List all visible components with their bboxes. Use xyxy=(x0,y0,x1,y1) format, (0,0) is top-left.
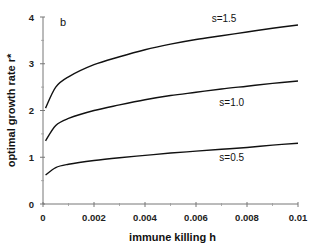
panel-label: b xyxy=(60,16,66,28)
y-tick-label: 2 xyxy=(29,105,34,116)
x-tick-label: 0 xyxy=(40,212,45,223)
x-tick-label: 0.004 xyxy=(133,212,157,223)
x-axis-title: immune killing h xyxy=(129,231,216,243)
line-chart: 0123400.0020.0040.0060.0080.01immune kil… xyxy=(0,0,319,250)
series-line-s10 xyxy=(46,81,298,141)
y-tick-label: 3 xyxy=(29,58,34,69)
y-tick-label: 1 xyxy=(29,152,35,163)
series-label: s=1.0 xyxy=(219,97,244,108)
y-tick-label: 4 xyxy=(29,12,35,23)
y-axis-title: optimal growth rate r* xyxy=(5,53,17,167)
curves xyxy=(46,25,298,175)
series-line-s05 xyxy=(46,143,298,175)
x-tick-label: 0.01 xyxy=(289,212,308,223)
x-tick-label: 0.008 xyxy=(235,212,259,223)
x-tick-label: 0.006 xyxy=(184,212,208,223)
axes: 0123400.0020.0040.0060.0080.01immune kil… xyxy=(5,12,308,244)
y-tick-label: 0 xyxy=(29,199,34,210)
x-tick-label: 0.002 xyxy=(82,212,106,223)
series-label: s=1.5 xyxy=(212,13,237,24)
series-label: s=0.5 xyxy=(219,152,244,163)
